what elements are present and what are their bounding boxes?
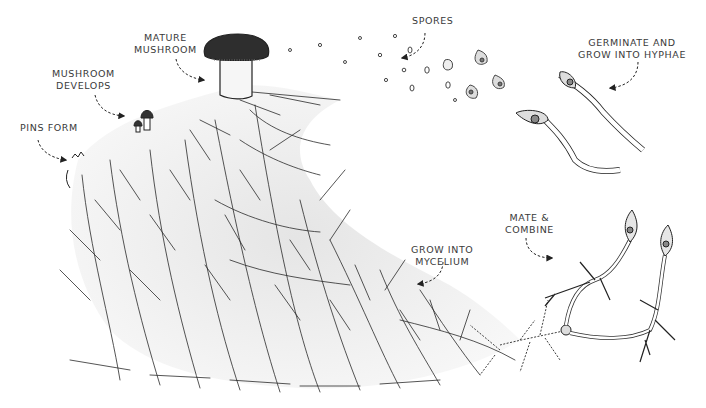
label-line: GROW INTO HYPHAE [578, 49, 686, 61]
label-pins-form: PINS FORM [20, 122, 78, 134]
label-line: SPORES [412, 15, 453, 27]
label-line: MATE & [505, 212, 554, 224]
spores [289, 34, 505, 101]
label-mature-mushroom: MATURE MUSHROOM [134, 32, 197, 56]
label-line: COMBINE [505, 224, 554, 236]
label-mate-combine: MATE & COMBINE [505, 212, 554, 236]
label-line: PINS FORM [20, 122, 78, 134]
label-line: MATURE [134, 32, 197, 44]
label-grow-mycelium: GROW INTO MYCELIUM [411, 244, 473, 268]
mushroom-lifecycle-diagram: PINS FORM MUSHROOM DEVELOPS MATURE MUSHR… [0, 0, 706, 408]
small-mushroom [134, 111, 153, 133]
label-line: GERMINATE AND [578, 37, 686, 49]
label-line: DEVELOPS [52, 80, 115, 92]
germinating-hyphae [516, 72, 643, 171]
label-line: MYCELIUM [411, 256, 473, 268]
label-mushroom-develops: MUSHROOM DEVELOPS [52, 68, 115, 92]
lifecycle-illustration [0, 0, 706, 408]
label-line: GROW INTO [411, 244, 473, 256]
label-spores: SPORES [412, 15, 453, 27]
mating-hyphae-network [545, 210, 675, 362]
label-line: MUSHROOM [52, 68, 115, 80]
label-germinate: GERMINATE AND GROW INTO HYPHAE [578, 37, 686, 61]
label-line: MUSHROOM [134, 44, 197, 56]
